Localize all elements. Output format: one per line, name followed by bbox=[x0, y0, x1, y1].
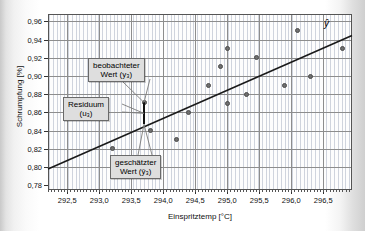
residual-segment bbox=[143, 102, 145, 124]
x-tick-minor bbox=[346, 190, 347, 192]
x-tick-label: 296,0 bbox=[282, 196, 301, 205]
y-tick bbox=[44, 112, 48, 113]
x-tick-label: 293,0 bbox=[90, 196, 109, 205]
x-tick-minor bbox=[214, 190, 215, 192]
x-tick-minor bbox=[176, 190, 177, 192]
y-axis-title: Schrumpfung [%] bbox=[15, 42, 24, 152]
x-tick-minor bbox=[237, 190, 238, 192]
regression-line-label: ŷ bbox=[324, 18, 329, 29]
x-tick-minor bbox=[307, 190, 308, 192]
x-tick-minor bbox=[298, 190, 299, 192]
x-tick-minor bbox=[336, 190, 337, 192]
y-tick-label: 0,86 bbox=[27, 108, 42, 117]
x-tick-minor bbox=[333, 190, 334, 192]
x-tick-minor bbox=[282, 190, 283, 192]
y-tick bbox=[44, 58, 48, 59]
x-tick-minor bbox=[246, 190, 247, 192]
x-tick-minor bbox=[166, 190, 167, 192]
x-tick-minor bbox=[230, 190, 231, 192]
x-tick-minor bbox=[182, 190, 183, 192]
x-tick-minor bbox=[269, 190, 270, 192]
x-tick-minor bbox=[186, 190, 187, 192]
x-tick-minor bbox=[163, 190, 164, 192]
x-tick-minor bbox=[240, 190, 241, 192]
x-tick-minor bbox=[205, 190, 206, 192]
y-tick bbox=[44, 167, 48, 168]
x-tick-minor bbox=[256, 190, 257, 192]
data-point bbox=[225, 46, 230, 51]
x-tick-minor bbox=[310, 190, 311, 192]
y-tick-label: 0,92 bbox=[27, 53, 42, 62]
x-tick-minor bbox=[74, 190, 75, 192]
x-tick-label: 296,5 bbox=[314, 196, 333, 205]
callout-fitted-line1: geschätzter bbox=[115, 158, 156, 167]
x-axis-title: Einspritztemp [°C] bbox=[48, 212, 352, 221]
x-tick-minor bbox=[339, 190, 340, 192]
x-tick-minor bbox=[51, 190, 52, 192]
x-tick-minor bbox=[234, 190, 235, 192]
figure-scatter-regression: ŷ 292,5293,0293,5294,0294,5295,0295,5296… bbox=[0, 0, 365, 231]
x-tick-minor bbox=[195, 190, 196, 192]
x-tick-minor bbox=[131, 190, 132, 192]
y-tick-label: 0,82 bbox=[27, 144, 42, 153]
x-tick-minor bbox=[330, 190, 331, 192]
x-tick-minor bbox=[134, 190, 135, 192]
y-tick bbox=[44, 94, 48, 95]
x-tick-minor bbox=[160, 190, 161, 192]
x-tick-minor bbox=[218, 190, 219, 192]
x-tick-minor bbox=[291, 190, 292, 192]
x-tick-minor bbox=[128, 190, 129, 192]
callout-observed-value: beobachteter Wert (y₃) bbox=[88, 58, 145, 82]
x-tick-minor bbox=[294, 190, 295, 192]
x-tick-minor bbox=[118, 190, 119, 192]
y-tick-label: 0,80 bbox=[27, 163, 42, 172]
y-tick-label: 0,96 bbox=[27, 17, 42, 26]
x-tick-minor bbox=[80, 190, 81, 192]
x-tick-minor bbox=[109, 190, 110, 192]
x-tick-label: 294,0 bbox=[154, 196, 173, 205]
x-tick-minor bbox=[112, 190, 113, 192]
x-tick-minor bbox=[243, 190, 244, 192]
x-tick-minor bbox=[86, 190, 87, 192]
x-tick-minor bbox=[192, 190, 193, 192]
x-tick-minor bbox=[342, 190, 343, 192]
callout-observed-line2: Wert (y₃) bbox=[93, 70, 140, 79]
callout-residual-line2: (u₃) bbox=[68, 109, 104, 118]
y-tick-label: 0,78 bbox=[27, 181, 42, 190]
callout-fitted-value: geschätzter Wert (ŷ₃) bbox=[110, 155, 161, 179]
y-tick-label: 0,88 bbox=[27, 90, 42, 99]
x-tick-minor bbox=[96, 190, 97, 192]
data-point bbox=[206, 83, 211, 88]
y-tick bbox=[44, 21, 48, 22]
x-tick-minor bbox=[227, 190, 228, 192]
callout-fitted-line2: Wert (ŷ₃) bbox=[115, 167, 156, 176]
y-tick-label: 0,84 bbox=[27, 126, 42, 135]
x-tick-label: 295,5 bbox=[250, 196, 269, 205]
x-tick-minor bbox=[115, 190, 116, 192]
x-tick-minor bbox=[48, 190, 49, 192]
x-tick-minor bbox=[61, 190, 62, 192]
x-tick-minor bbox=[320, 190, 321, 192]
x-tick-minor bbox=[141, 190, 142, 192]
x-tick-minor bbox=[64, 190, 65, 192]
x-tick-minor bbox=[125, 190, 126, 192]
x-tick-minor bbox=[189, 190, 190, 192]
x-tick-minor bbox=[253, 190, 254, 192]
x-tick-minor bbox=[173, 190, 174, 192]
x-tick-minor bbox=[179, 190, 180, 192]
y-tick bbox=[44, 76, 48, 77]
x-tick-minor bbox=[250, 190, 251, 192]
x-tick-label: 293,5 bbox=[122, 196, 141, 205]
x-tick-minor bbox=[154, 190, 155, 192]
x-tick-minor bbox=[224, 190, 225, 192]
x-tick-minor bbox=[147, 190, 148, 192]
x-tick-minor bbox=[323, 190, 324, 192]
x-tick-minor bbox=[326, 190, 327, 192]
callout-residual-line1: Residuum bbox=[68, 100, 104, 109]
x-tick-minor bbox=[83, 190, 84, 192]
x-tick-minor bbox=[90, 190, 91, 192]
x-tick-minor bbox=[77, 190, 78, 192]
y-tick bbox=[44, 40, 48, 41]
x-tick-minor bbox=[106, 190, 107, 192]
x-tick-label: 294,5 bbox=[186, 196, 205, 205]
